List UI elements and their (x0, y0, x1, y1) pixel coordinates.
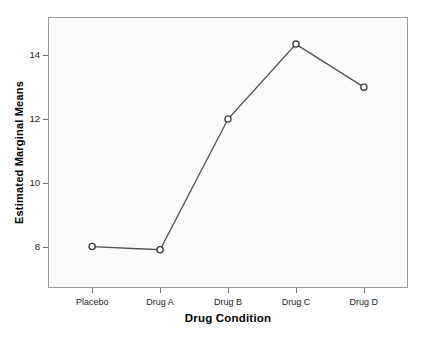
y-tick-label: 8 (22, 241, 40, 252)
series-line-estimated-marginal-means (92, 44, 364, 250)
y-tick-label: 10 (22, 177, 40, 188)
x-axis-title: Drug Condition (48, 312, 408, 324)
x-tick-label-drug-b: Drug B (214, 297, 242, 307)
data-point-marker (361, 84, 367, 90)
y-tick-label: 14 (22, 49, 40, 60)
data-series-layer (48, 17, 408, 288)
x-tick-mark (160, 288, 161, 293)
x-tick-label-drug-c: Drug C (282, 297, 311, 307)
x-tick-label-drug-d: Drug D (350, 297, 379, 307)
data-point-marker (157, 247, 163, 253)
data-point-marker (293, 41, 299, 47)
data-point-marker (89, 243, 95, 249)
profile-plot-chart: Estimated Marginal Means 8101214 Placebo… (0, 0, 427, 340)
data-point-marker (225, 116, 231, 122)
x-tick-mark (296, 288, 297, 293)
y-tick-label: 12 (22, 113, 40, 124)
x-tick-label-drug-a: Drug A (146, 297, 174, 307)
x-tick-mark (92, 288, 93, 293)
x-tick-mark (364, 288, 365, 293)
x-tick-mark (228, 288, 229, 293)
x-tick-label-placebo: Placebo (76, 297, 109, 307)
series-markers (89, 41, 367, 253)
